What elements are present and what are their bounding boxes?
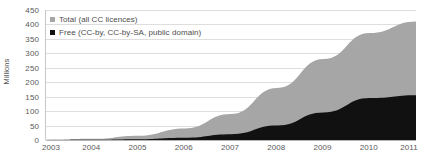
gridline (46, 140, 416, 141)
legend-label: Total (all CC licences) (59, 15, 138, 24)
x-tick-label: 2007 (221, 143, 239, 152)
y-axis-tick-labels: 050100150200250300350400450 (14, 0, 42, 150)
y-tick-label: 150 (25, 92, 39, 101)
x-tick-label: 2004 (82, 143, 100, 152)
legend-label: Free (CC-by, CC-by-SA, public domain) (59, 28, 201, 37)
y-tick-label: 450 (25, 6, 39, 15)
x-tick-label: 2008 (267, 143, 285, 152)
y-tick-label: 400 (25, 20, 39, 29)
x-tick-label: 2006 (175, 143, 193, 152)
legend-swatch-icon (50, 30, 55, 35)
y-axis-title: Millions (0, 0, 14, 142)
x-tick-label: 2009 (313, 143, 331, 152)
legend-entry: Total (all CC licences) (50, 14, 201, 24)
x-tick-label: 2005 (128, 143, 146, 152)
x-tick-label: 2010 (360, 143, 378, 152)
y-tick-label: 200 (25, 78, 39, 87)
y-tick-label: 250 (25, 63, 39, 72)
x-tick-label: 2003 (42, 143, 60, 152)
y-tick-label: 350 (25, 34, 39, 43)
area-chart: Millions 050100150200250300350400450 200… (0, 0, 424, 168)
y-tick-label: 100 (25, 107, 39, 116)
x-axis-tick-labels: 200320042005200620072008200920102011 (45, 143, 415, 163)
legend-swatch-icon (50, 17, 55, 22)
chart-legend: Total (all CC licences)Free (CC-by, CC-b… (50, 14, 201, 37)
legend-entry: Free (CC-by, CC-by-SA, public domain) (50, 27, 201, 37)
x-tick-label: 2011 (400, 143, 418, 152)
y-tick-label: 300 (25, 49, 39, 58)
y-axis-title-label: Millions (3, 58, 12, 84)
y-tick-label: 50 (30, 121, 39, 130)
y-tick-label: 0 (34, 136, 39, 145)
